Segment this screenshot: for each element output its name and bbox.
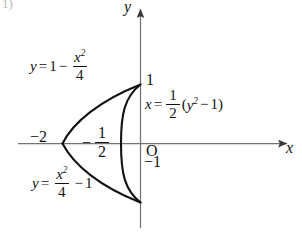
eq-right-variable: y2 [187, 97, 198, 113]
eq-right-denominator: 2 [166, 104, 180, 121]
eq-top-minus: − [57, 59, 69, 74]
eq-bottom-lhs: y [32, 176, 39, 191]
fraction-one-half: 1 2 [95, 125, 109, 160]
eq-top-denominator: 4 [73, 66, 87, 83]
eq-right-lhs: x [145, 97, 152, 112]
eq-top-numerator: x2 [71, 49, 88, 66]
eq-bottom-last-term: 1 [85, 176, 93, 191]
tick-label-x-negative-two: −2 [30, 129, 47, 145]
eq-right-fraction: 1 2 [166, 88, 180, 121]
eq-right-equals: = [152, 97, 164, 112]
eq-bottom-denominator: 4 [55, 183, 69, 200]
equation-lower-parabola: y = x2 4 − 1 [32, 166, 92, 200]
eq-top-term1: 1 [49, 59, 57, 74]
eq-right-last-term: 1 [210, 97, 218, 112]
eq-top-lhs: y [30, 59, 37, 74]
equation-upper-parabola: y = 1 − x2 4 [30, 49, 90, 83]
minus-sign: − [80, 135, 93, 151]
eq-bottom-minus: − [72, 176, 84, 191]
equation-inner-parabola: x = 1 2 ( y2 − 1 ) [145, 88, 223, 121]
eq-bottom-equals: = [39, 176, 51, 191]
eq-bottom-numerator: x2 [53, 166, 70, 183]
y-axis-label: y [124, 0, 131, 15]
eq-top-fraction: x2 4 [71, 49, 88, 83]
parabola-figure: 1) y x O 1 −1 −2 − 1 2 [0, 0, 302, 237]
eq-right-close-paren: ) [218, 97, 223, 112]
tick-label-x-negative-half: − 1 2 [80, 125, 111, 160]
eq-right-numerator: 1 [166, 88, 180, 104]
tick-label-y-negative-one: −1 [144, 154, 161, 170]
eq-bottom-fraction: x2 4 [53, 166, 70, 200]
eq-right-minus: − [198, 97, 210, 112]
eq-top-equals: = [37, 59, 49, 74]
x-axis-label: x [286, 140, 293, 156]
tick-label-y-one: 1 [146, 72, 154, 88]
